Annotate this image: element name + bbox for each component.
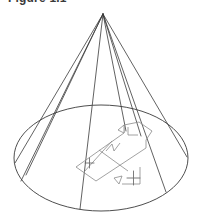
figure-root: Figure 1.1 Line drawing of a cone viewed…: [0, 0, 199, 222]
line-right-outer-edge: [103, 14, 166, 192]
line-right-far-edge: [103, 14, 187, 157]
arrow-head-upper-left: [118, 125, 124, 133]
line-right-sector-b: [103, 14, 141, 136]
line-right-sector-a: [103, 14, 126, 131]
arrow-head-lower-right: [114, 176, 122, 184]
corner-bracket-upper: [128, 127, 138, 135]
cross-marker-right: [127, 171, 140, 185]
band-outline-upper: [76, 122, 152, 181]
line-center-vertical: [80, 14, 103, 209]
cone-diagram-svg: Line drawing of a cone viewed in perspec…: [0, 0, 199, 222]
line-left-outer-edge: [15, 14, 103, 163]
cone-generator-lines: [15, 14, 187, 209]
line-left-mid: [26, 14, 103, 175]
inscribed-band-group: [76, 122, 152, 184]
band-divider-diagonal: [99, 150, 128, 171]
corner-bracket-lower: [122, 167, 140, 184]
